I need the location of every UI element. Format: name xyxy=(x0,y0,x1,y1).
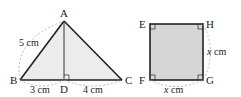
geometry-diagram: A B C D 5 cm 3 cm 4 cm E H F G x cm x cm xyxy=(0,0,241,97)
measure-hg: x cm xyxy=(206,46,226,57)
vertex-label-f: F xyxy=(139,74,145,86)
measure-fg: x cm xyxy=(163,84,183,95)
measure-ab: 5 cm xyxy=(19,37,39,48)
measure-bd: 3 cm xyxy=(30,84,50,95)
vertex-label-e: E xyxy=(139,18,146,30)
measure-dc: 4 cm xyxy=(83,84,103,95)
vertex-label-a: A xyxy=(60,7,68,19)
side-unit: cm xyxy=(211,46,226,57)
square-efgh: E H F G x cm x cm xyxy=(139,18,226,95)
vertex-label-d: D xyxy=(60,83,68,95)
square-body xyxy=(150,24,203,80)
triangle-fill xyxy=(20,21,122,80)
vertex-label-c: C xyxy=(125,74,132,86)
vertex-label-h: H xyxy=(206,18,214,30)
vertex-label-b: B xyxy=(10,74,17,86)
triangle-abc: A B C D 5 cm 3 cm 4 cm xyxy=(10,7,132,95)
side-unit: cm xyxy=(168,84,183,95)
vertex-label-g: G xyxy=(206,74,214,86)
